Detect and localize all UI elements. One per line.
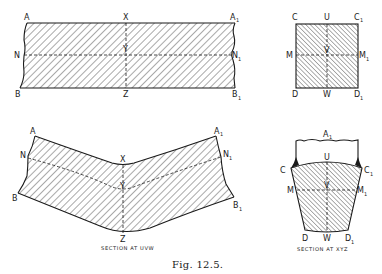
label-M1: M xyxy=(359,51,366,60)
label-X: X xyxy=(120,155,126,164)
label-A: A xyxy=(24,13,30,22)
straight-beam-body xyxy=(20,23,235,88)
label-Y: Y xyxy=(122,45,128,54)
svg-text:1: 1 xyxy=(351,239,354,245)
figure-12-5: A X A 1 N Y N 1 B Z B 1 C U C 1 M V M 1 … xyxy=(0,0,382,274)
svg-text:1: 1 xyxy=(364,191,367,197)
svg-text:1: 1 xyxy=(220,131,223,137)
svg-text:1: 1 xyxy=(360,17,363,23)
label-N: N xyxy=(14,51,20,60)
figure-caption: Fig. 12.5. xyxy=(172,259,223,270)
bent-beam-panel: A A 1 N N 1 X Y B B 1 Z SECTION AT UVW xyxy=(12,127,242,251)
caption-section-xyz: SECTION AT XYZ xyxy=(297,246,348,252)
label-Z: Z xyxy=(123,90,129,99)
label-V: V xyxy=(324,181,330,190)
svg-text:1: 1 xyxy=(238,95,241,101)
svg-text:1: 1 xyxy=(238,56,241,62)
svg-text:1: 1 xyxy=(360,95,363,101)
label-M: M xyxy=(286,51,293,60)
label-W: W xyxy=(323,234,331,243)
label-B: B xyxy=(12,194,18,203)
label-C: C xyxy=(280,166,286,175)
label-X: X xyxy=(123,13,129,22)
deformed-section-body xyxy=(291,162,362,232)
svg-text:1: 1 xyxy=(366,56,369,62)
svg-text:1: 1 xyxy=(329,134,332,140)
label-B1: B xyxy=(233,201,239,210)
label-U: U xyxy=(324,13,330,22)
label-M: M xyxy=(287,186,294,195)
label-W: W xyxy=(323,90,331,99)
bent-beam-body xyxy=(18,136,234,232)
svg-text:1: 1 xyxy=(229,155,232,161)
caption-section-uvw: SECTION AT UVW xyxy=(101,245,154,251)
svg-text:1: 1 xyxy=(239,206,242,212)
label-D: D xyxy=(302,234,308,243)
label-V: V xyxy=(324,46,330,55)
label-Z: Z xyxy=(120,235,126,244)
label-N: N xyxy=(20,151,26,160)
label-D: D xyxy=(292,90,298,99)
label-C: C xyxy=(292,13,298,22)
square-section-panel: C U C 1 M V M 1 D W D 1 xyxy=(286,13,369,101)
straight-beam-panel: A X A 1 N Y N 1 B Z B 1 xyxy=(14,13,241,101)
svg-text:1: 1 xyxy=(236,17,239,23)
label-A: A xyxy=(30,127,36,136)
label-B: B xyxy=(15,90,21,99)
label-U: U xyxy=(324,153,330,162)
label-M1: M xyxy=(357,186,364,195)
deformed-section-panel: A 1 U C C 1 M V M 1 D W D 1 SECTION AT X… xyxy=(280,130,373,252)
label-Y: Y xyxy=(119,182,125,191)
label-B1: B xyxy=(232,90,238,99)
svg-text:1: 1 xyxy=(370,171,373,177)
